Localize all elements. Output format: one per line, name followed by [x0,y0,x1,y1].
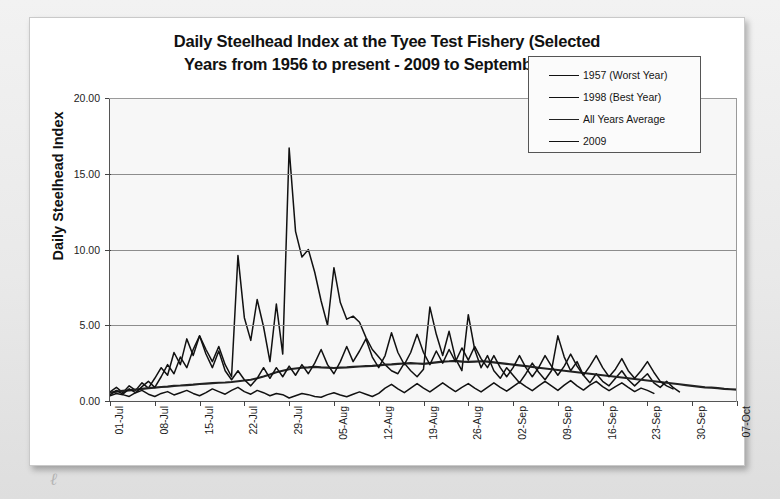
y-tick-label: 20.00 [54,92,100,104]
y-tick-label: 5.00 [54,319,100,331]
legend-label: All Years Average [583,113,665,125]
x-tick-label: 07-Oct [740,406,752,438]
y-tick-label: 15.00 [54,168,100,180]
legend-swatch-icon [549,141,579,142]
x-tick-label: 16-Sep [606,406,618,440]
x-tick-label: 23-Sep [650,406,662,440]
x-tick-label: 09-Sep [561,406,573,440]
x-tick-label: 29-Jul [292,406,304,435]
y-tick-label: 10.00 [54,244,100,256]
x-tick-label: 22-Jul [247,406,259,435]
x-tick-label: 26-Aug [471,406,483,440]
x-tick-label: 08-Jul [158,406,170,435]
x-tick-label: 05-Aug [337,406,349,440]
y-axis-tick-labels: 0.005.0010.0015.0020.00 [54,18,100,465]
gridline [110,174,737,175]
gridline [110,325,737,326]
y-tick-mark [105,174,111,175]
chart-title-line-1: Daily Steelhead Index at the Tyee Test F… [70,30,704,53]
legend-swatch-icon [549,97,579,98]
legend-item[interactable]: 2009 [529,129,700,153]
x-tick-label: 01-Jul [113,406,125,435]
chart-figure: Daily Steelhead Index at the Tyee Test F… [30,18,744,465]
chart-legend: 1957 (Worst Year)1998 (Best Year)All Yea… [528,56,701,153]
x-tick-label: 19-Aug [427,406,439,440]
legend-label: 1998 (Best Year) [583,91,661,103]
x-axis-tick-labels: 01-Jul08-Jul15-Jul22-Jul29-Jul05-Aug12-A… [109,406,736,466]
x-tick-label: 30-Sep [695,406,707,440]
legend-label: 1957 (Worst Year) [583,69,667,81]
legend-item[interactable]: 1957 (Worst Year) [529,63,700,87]
legend-swatch-icon [549,119,579,120]
y-tick-mark [105,325,111,326]
x-tick-label: 12-Aug [382,406,394,440]
handwritten-mark: ℓ [50,470,57,490]
x-tick-label: 02-Sep [516,406,528,440]
legend-swatch-icon [549,75,579,76]
y-tick-mark [105,98,111,99]
y-tick-mark [105,250,111,251]
gridline [110,250,737,251]
x-tick-mark [737,401,738,406]
y-tick-label: 0.00 [54,395,100,407]
x-tick-label: 15-Jul [203,406,215,435]
legend-item[interactable]: 1998 (Best Year) [529,85,700,109]
legend-label: 2009 [583,135,606,147]
legend-item[interactable]: All Years Average [529,107,700,131]
chart-card: Daily Steelhead Index at the Tyee Test F… [29,17,745,466]
